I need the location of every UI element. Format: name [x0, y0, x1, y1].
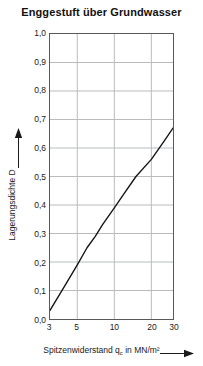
x-axis-tick-labels: 35102030 [49, 323, 174, 337]
y-axis-tick-label: 0,0 [34, 316, 46, 325]
chart-figure: Enggestuft über Grundwasser 0,00,10,20,3… [0, 0, 203, 366]
y-axis-tick-label: 1,0 [34, 29, 46, 38]
x-axis-tick-label: 5 [74, 323, 79, 332]
y-axis-tick-label: 0,9 [34, 57, 46, 66]
chart-title: Enggestuft über Grundwasser [0, 6, 203, 18]
y-axis-tick-label: 0,2 [34, 258, 46, 267]
x-axis-tick-label: 20 [147, 323, 156, 332]
y-axis-tick-label: 0,3 [34, 230, 46, 239]
horizontal-gridlines [50, 63, 173, 291]
y-axis-tick-label: 0,1 [34, 287, 46, 296]
plot-grid-and-curve [50, 34, 173, 319]
y-axis-tick-label: 0,6 [34, 144, 46, 153]
x-axis-tick-label: 3 [47, 323, 52, 332]
plot-area [49, 33, 174, 320]
x-axis-tick-label: 30 [169, 323, 178, 332]
right-arrow-icon [160, 349, 194, 358]
y-axis-tick-labels: 0,00,10,20,30,40,50,60,70,80,91,0 [22, 33, 46, 320]
y-axis-tick-label: 0,7 [34, 115, 46, 124]
y-axis-tick-label: 0,5 [34, 172, 46, 181]
y-axis-tick-label: 0,4 [34, 201, 46, 210]
y-axis-title: Lagerungsdichte D [7, 150, 17, 260]
x-axis-tick-label: 10 [110, 323, 119, 332]
y-axis-tick-label: 0,8 [34, 86, 46, 95]
data-curve [50, 128, 173, 310]
